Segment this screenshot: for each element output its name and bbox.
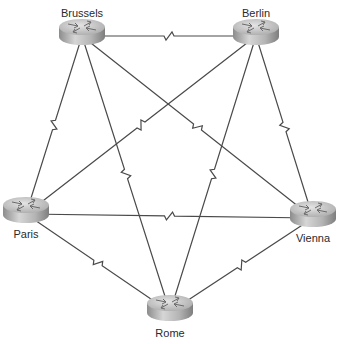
router-rome [147, 295, 193, 321]
router-paris [3, 197, 49, 223]
router-berlin [233, 19, 279, 45]
router-brussels [59, 19, 105, 45]
label-rome: Rome [155, 327, 184, 339]
link-paris-rome [26, 214, 170, 312]
label-brussels: Brussels [61, 7, 103, 19]
network-diagram: Topology BrusselsBerlinParisViennaRome [0, 0, 341, 344]
router-vienna [290, 201, 336, 227]
link-berlin-rome [170, 36, 256, 312]
link-paris-vienna [26, 212, 313, 220]
label-berlin: Berlin [242, 7, 270, 19]
link-brussels-rome [82, 36, 170, 312]
label-paris: Paris [13, 228, 38, 240]
link-brussels-paris [26, 36, 82, 214]
link-brussels-berlin [82, 32, 256, 40]
links-layer [0, 0, 341, 344]
link-berlin-paris [26, 36, 256, 214]
link-berlin-vienna [256, 36, 313, 218]
label-vienna: Vienna [296, 232, 330, 244]
link-brussels-vienna [82, 36, 313, 218]
link-vienna-rome [170, 218, 313, 312]
